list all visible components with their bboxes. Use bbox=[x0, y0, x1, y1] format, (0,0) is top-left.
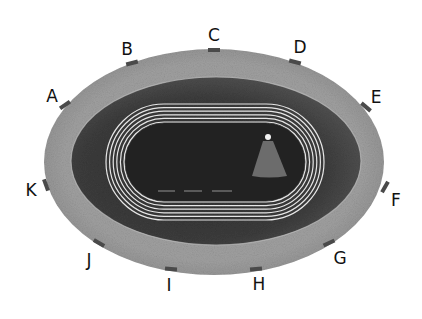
gate-label-g: G bbox=[333, 250, 346, 267]
gate-label-k: K bbox=[25, 182, 36, 199]
stadium-diagram: ABCDEFGHIJK bbox=[0, 0, 422, 319]
gate-label-c: C bbox=[208, 27, 220, 44]
gate-marker-c bbox=[208, 48, 220, 52]
gate-label-f: F bbox=[391, 192, 401, 209]
gate-label-d: D bbox=[293, 39, 306, 56]
gate-marker-f bbox=[380, 181, 389, 193]
stadium-svg bbox=[0, 0, 422, 319]
gate-label-b: B bbox=[121, 41, 133, 58]
gate-label-i: I bbox=[166, 277, 171, 294]
throwing-circle bbox=[265, 134, 271, 140]
gate-label-h: H bbox=[253, 276, 266, 293]
gate-label-j: J bbox=[86, 252, 91, 269]
gate-label-a: A bbox=[46, 88, 58, 105]
gate-label-e: E bbox=[371, 89, 382, 106]
